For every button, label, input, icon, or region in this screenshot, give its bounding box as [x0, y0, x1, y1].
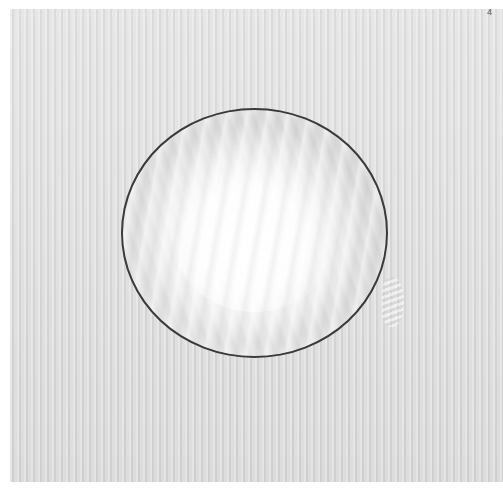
page-number: 4 [487, 7, 492, 17]
plastic-wrap-excess [382, 277, 404, 327]
plastic-wrap-sheen [123, 110, 386, 356]
photo-background [10, 9, 503, 482]
plastic-wrapped-bowl [121, 108, 388, 358]
